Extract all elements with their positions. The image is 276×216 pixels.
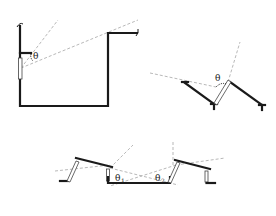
angle-label-theta-2: θ	[155, 173, 160, 183]
sight-ray-high	[21, 20, 58, 68]
window-pane	[19, 58, 23, 79]
figure-c-monitor-windows: θ 1 θ 2	[55, 140, 225, 186]
roof-segment-left	[185, 83, 214, 104]
window-right-inclined	[168, 162, 180, 183]
angle-label-theta: θ	[215, 73, 220, 83]
sight-ray-left-low	[55, 165, 110, 171]
sight-ray-low	[21, 20, 138, 68]
roof-right	[175, 160, 210, 169]
window-pane	[214, 80, 231, 105]
roof-segment-right	[230, 82, 262, 105]
diagram-canvas: θ θ θ 1 θ 2	[0, 0, 276, 216]
angle-label-theta-1: θ	[115, 173, 120, 183]
sight-ray-low	[150, 73, 216, 87]
angle-subscript-1: 1	[121, 177, 125, 184]
roof-left	[76, 158, 112, 167]
room-outline	[20, 26, 137, 106]
figure-a-vertical-window: θ	[17, 20, 138, 106]
angle-subscript-2: 2	[161, 177, 165, 184]
window-right-vertical	[205, 171, 208, 182]
sight-ray-high	[228, 42, 240, 82]
window-left-strut	[67, 161, 79, 182]
figure-b-sawtooth-window: θ	[150, 42, 265, 110]
sight-ray-left-high	[110, 145, 133, 168]
angle-label-theta: θ	[33, 51, 38, 61]
